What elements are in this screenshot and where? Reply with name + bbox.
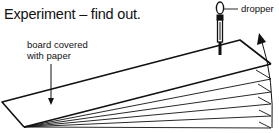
arrow-down-icon bbox=[48, 64, 54, 105]
board-icon bbox=[2, 40, 271, 127]
dropper-icon bbox=[216, 2, 238, 55]
experiment-diagram bbox=[0, 0, 279, 133]
board-angle-lines bbox=[24, 70, 271, 128]
